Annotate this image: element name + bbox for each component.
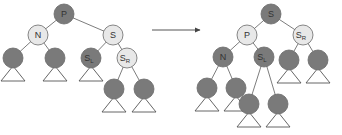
tree-node-before-P: P <box>54 4 74 24</box>
node-label: P <box>244 30 250 40</box>
node-label: S <box>268 9 274 19</box>
tree-node-after-SRR <box>308 50 328 70</box>
tree-node-before-SRL <box>104 79 124 99</box>
black-node-circle <box>45 48 65 68</box>
tree-node-after-SLL <box>239 94 259 114</box>
black-node-circle <box>279 50 299 70</box>
tree-node-before-SL: SL <box>81 48 101 68</box>
tree-node-after-P: P <box>237 25 257 45</box>
node-label: S <box>110 30 116 40</box>
black-node-circle <box>239 94 259 114</box>
nodes: PNSSLSRSPSRNSL <box>3 4 328 114</box>
tree-node-before-SR: SR <box>117 48 137 68</box>
black-node-circle <box>3 48 23 68</box>
node-label: P <box>61 9 67 19</box>
black-node-circle <box>134 79 154 99</box>
tree-node-after-NL <box>197 78 217 98</box>
tree-node-after-S: S <box>261 4 281 24</box>
black-node-circle <box>104 79 124 99</box>
tree-node-before-NR <box>45 48 65 68</box>
tree-node-after-SR: SR <box>293 25 313 45</box>
red-black-tree-rotation-diagram: PNSSLSRSPSRNSL <box>0 0 342 135</box>
black-node-circle <box>197 78 217 98</box>
tree-node-before-SRR <box>134 79 154 99</box>
black-node-circle <box>226 78 246 98</box>
tree-node-after-SL: SL <box>254 47 274 67</box>
tree-node-before-NL <box>3 48 23 68</box>
black-node-circle <box>268 94 288 114</box>
tree-node-after-N: N <box>213 47 233 67</box>
black-node-circle <box>308 50 328 70</box>
tree-node-after-SLR <box>268 94 288 114</box>
node-label: N <box>35 30 42 40</box>
tree-node-after-SRL <box>279 50 299 70</box>
tree-node-before-N: N <box>28 25 48 45</box>
node-label: N <box>220 52 227 62</box>
tree-node-before-S: S <box>103 25 123 45</box>
tree-node-after-NR <box>226 78 246 98</box>
